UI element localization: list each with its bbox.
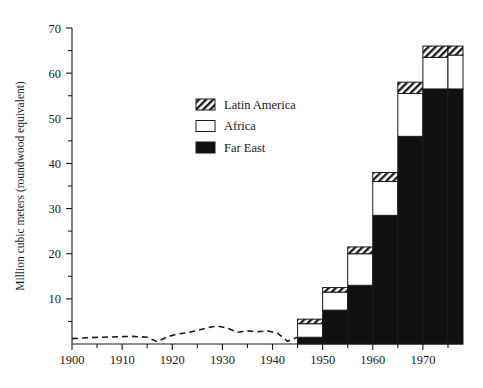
legend-swatch-africa xyxy=(196,121,215,132)
y-tick-label: 30 xyxy=(49,202,62,216)
y-tick-label: 40 xyxy=(49,157,62,171)
legend-label-africa: Africa xyxy=(224,119,256,133)
bar-segment-far-east xyxy=(298,337,323,344)
bar-segment-latin-america xyxy=(323,288,348,293)
bar-segment-latin-america xyxy=(448,46,463,55)
bar-segment-far-east xyxy=(423,89,448,344)
bar-segment-africa xyxy=(348,254,373,286)
bar-segment-africa xyxy=(398,93,423,136)
x-tick-label: 1960 xyxy=(360,353,385,367)
stacked-bar-chart: 1020304050607019001910192019301940195019… xyxy=(0,0,483,388)
bar-segment-far-east xyxy=(448,89,463,344)
x-tick-label: 1970 xyxy=(410,353,435,367)
bar-segment-far-east xyxy=(398,136,423,344)
x-tick-label: 1930 xyxy=(210,353,235,367)
y-tick-label: 50 xyxy=(49,112,62,126)
bar-segment-latin-america xyxy=(398,82,423,93)
legend-swatch-far-east xyxy=(196,142,215,153)
bar-segment-latin-america xyxy=(423,46,448,57)
bar-segment-africa xyxy=(373,181,398,215)
bar-segment-latin-america xyxy=(298,319,323,324)
bar-segment-far-east xyxy=(348,285,373,344)
bar-segment-africa xyxy=(423,57,448,89)
x-tick-label: 1910 xyxy=(110,353,135,367)
x-tick-label: 1950 xyxy=(310,353,335,367)
y-tick-label: 20 xyxy=(49,247,62,261)
bar-segment-latin-america xyxy=(373,172,398,181)
bar-segment-far-east xyxy=(373,215,398,344)
y-tick-label: 10 xyxy=(49,292,62,306)
bar-segment-latin-america xyxy=(348,247,373,254)
bar-segment-africa xyxy=(323,292,348,310)
legend-swatch-latin-america xyxy=(196,99,215,110)
legend-label-far-east: Far East xyxy=(224,141,266,155)
bar-segment-africa xyxy=(298,324,323,338)
y-tick-label: 70 xyxy=(49,22,62,36)
x-tick-label: 1920 xyxy=(160,353,185,367)
x-tick-label: 1940 xyxy=(260,353,285,367)
y-tick-label: 60 xyxy=(49,67,62,81)
bar-segment-far-east xyxy=(323,310,348,344)
bar-segment-africa xyxy=(448,55,463,89)
legend-label-latin-america: Latin America xyxy=(224,98,296,112)
y-axis-title: Million cubic meters (roundwood equivale… xyxy=(14,81,27,291)
x-tick-label: 1900 xyxy=(60,353,85,367)
chart-container: 1020304050607019001910192019301940195019… xyxy=(0,0,483,388)
